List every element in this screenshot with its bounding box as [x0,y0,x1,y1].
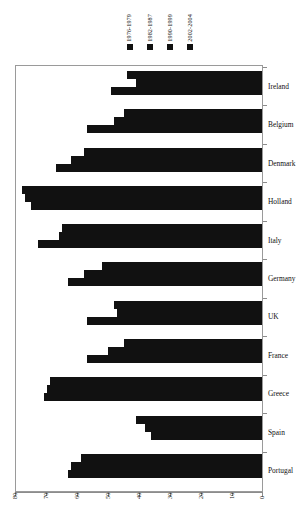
bar [71,156,262,164]
bar-group [16,221,262,259]
bar-row [16,172,262,180]
bar-row [16,462,262,470]
bar-row [16,202,262,210]
bar-row [16,71,262,79]
bar-row [16,416,262,424]
bar-row [16,156,262,164]
bar [62,224,262,232]
bar-row [16,262,262,270]
bar [68,278,262,286]
y-axis-label: France [268,336,308,374]
legend-label-2: 1982-1987 [147,14,153,42]
bar-row [16,339,262,347]
x-axis-tick-labels: 80706050403020100 [15,499,263,527]
bar [56,164,262,172]
bar [124,339,262,347]
y-tick-mark [263,67,267,68]
plot-area [15,65,263,492]
bar [117,309,262,317]
bar-row [16,232,262,240]
y-axis-label: Portugal [268,452,308,490]
bar-row [16,194,262,202]
bar-row [16,309,262,317]
bar-group [16,68,262,106]
x-axis-tick-label: 70 [43,493,49,499]
y-tick-mark [263,221,267,222]
bar [151,432,262,440]
legend-swatch-3-icon [167,44,173,50]
bar [102,262,262,270]
bar-row [16,240,262,248]
bar [136,416,262,424]
y-tick-mark [263,298,267,299]
legend-label-1: 1976-1979 [126,14,132,42]
y-axis-label: Ireland [268,67,308,105]
bar-row [16,286,262,294]
x-axis-tick-label: 20 [198,493,204,499]
bar-row [16,363,262,371]
y-axis-label: UK [268,298,308,336]
bar-row [16,347,262,355]
bar [38,240,262,248]
bar [114,301,262,309]
bar [111,87,262,95]
bar-row [16,317,262,325]
bar [44,393,262,401]
legend-item-2: 1982-1987 [142,14,157,50]
legend-swatch-1-icon [127,44,133,50]
bar-row [16,278,262,286]
bar-row [16,385,262,393]
bar-group [16,298,262,336]
legend-label-3: 1990-1999 [167,14,173,42]
y-tick-mark [263,144,267,145]
bar [59,232,262,240]
y-axis-labels: IrelandBelgiumDenmarkHollandItalyGermany… [268,65,308,492]
y-tick-mark [263,413,267,414]
bar-group [16,259,262,297]
bar [87,125,262,133]
bar [22,186,262,194]
bar-row [16,432,262,440]
bar [127,71,262,79]
chart-figure: 1976-1979 1982-1987 1990-1999 2002-2004 … [0,0,308,530]
chart-legend: 1976-1979 1982-1987 1990-1999 2002-2004 [122,4,198,50]
bar [25,194,262,202]
bar-row [16,470,262,478]
x-axis-tick-label: 40 [136,493,142,499]
x-axis-tick-label: 80 [12,493,18,499]
bar-row [16,270,262,278]
legend-item-4: 2002-2004 [183,14,198,50]
legend-item-1: 1976-1979 [122,14,137,50]
x-axis-tick-label: 60 [74,493,80,499]
x-axis-tick-label: 50 [105,493,111,499]
y-tick-mark [263,259,267,260]
y-axis-label: Greece [268,375,308,413]
bar-row [16,401,262,409]
y-tick-mark [263,105,267,106]
y-tick-mark [263,182,267,183]
bar-row [16,301,262,309]
y-axis-label: Italy [268,221,308,259]
bar [87,355,262,363]
x-axis-tick-label: 10 [229,493,235,499]
y-tick-mark [263,336,267,337]
bar [145,424,262,432]
bar-group [16,183,262,221]
y-axis-label: Holland [268,182,308,220]
bar-row [16,355,262,363]
bar-group [16,451,262,489]
y-axis-label: Germany [268,259,308,297]
bar [31,202,262,210]
bar [50,377,262,385]
bar [114,117,262,125]
bar [108,347,262,355]
bar-row [16,133,262,141]
bar-row [16,440,262,448]
y-axis-label: Belgium [268,105,308,143]
legend-label-4: 2002-2004 [187,14,193,42]
bar-row [16,393,262,401]
legend-swatch-4-icon [187,44,193,50]
bar-group [16,106,262,144]
bar-row [16,125,262,133]
bar [124,109,262,117]
